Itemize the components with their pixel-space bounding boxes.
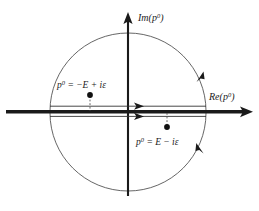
- complex-plane-diagram: p0 = −E + iε p0 = E − iε Im(p0) Re(p0): [0, 0, 259, 211]
- imaginary-axis-group: [123, 12, 132, 196]
- imaginary-axis-label: Im(p0): [137, 12, 164, 24]
- pole-lower-right-label: p0 = E − iε: [135, 136, 179, 147]
- pole-upper-left-label: p0 = −E + iε: [56, 79, 106, 90]
- real-axis-label: Re(p0): [208, 91, 235, 103]
- diagram-canvas: p0 = −E + iε p0 = E − iε Im(p0) Re(p0): [0, 0, 259, 211]
- pole-lower-right-group: p0 = E − iε: [135, 113, 179, 147]
- real-axis-group: [6, 106, 253, 117]
- pole-lower-right-dot: [164, 124, 170, 130]
- pole-upper-left-dot: [87, 92, 93, 98]
